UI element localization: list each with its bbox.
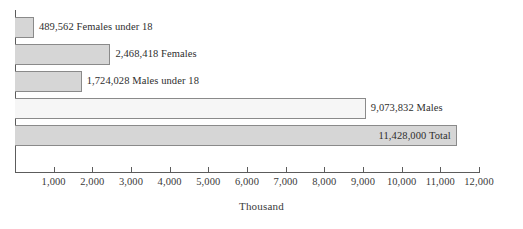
- bar: [15, 17, 34, 38]
- x-axis-tick-mark: [402, 167, 403, 173]
- x-axis-tick-label: 7,000: [274, 176, 298, 187]
- x-axis-tick-mark: [440, 167, 441, 173]
- bar-item: 11,428,000 Total: [15, 125, 457, 146]
- x-axis-tick-label: 5,000: [196, 176, 220, 187]
- x-axis-tick-label: 3,000: [119, 176, 143, 187]
- bar-chart: 1,0002,0003,0004,0005,0006,0007,0008,000…: [0, 0, 523, 229]
- x-axis-tick-mark: [247, 167, 248, 173]
- x-axis-tick-label: 11,000: [426, 176, 455, 187]
- x-axis-tick-label: 4,000: [158, 176, 182, 187]
- bar-item: 1,724,028 Males under 18: [15, 71, 199, 92]
- x-axis-tick-mark: [324, 167, 325, 173]
- x-axis-tick-label: 1,000: [42, 176, 66, 187]
- bar-value-label: 11,428,000 Total: [379, 130, 451, 141]
- bar-item: 2,468,418 Females: [15, 44, 197, 65]
- bar-row: 11,428,000 Total: [15, 125, 457, 146]
- x-axis-tick-mark: [170, 167, 171, 173]
- bar-value-label: 1,724,028 Males under 18: [87, 76, 199, 87]
- x-axis-tick-mark: [363, 167, 364, 173]
- x-axis-tick-mark: [208, 167, 209, 173]
- bar-row: 2,468,418 Females: [15, 44, 197, 65]
- x-axis-tick-mark: [131, 167, 132, 173]
- bar-value-label: 9,073,832 Males: [371, 103, 443, 114]
- bar: [15, 71, 82, 92]
- bar-value-label: 2,468,418 Females: [115, 49, 196, 60]
- bar-row: 489,562 Females under 18: [15, 17, 153, 38]
- x-axis-tick-mark: [286, 167, 287, 173]
- x-axis-tick-label: 12,000: [464, 176, 493, 187]
- x-axis-tick-label: 2,000: [80, 176, 104, 187]
- bar-item: 9,073,832 Males: [15, 98, 443, 119]
- bar-value-label: 489,562 Females under 18: [39, 22, 153, 33]
- x-axis-tick-label: 8,000: [312, 176, 336, 187]
- bar: [15, 44, 110, 65]
- x-axis-tick-mark: [54, 167, 55, 173]
- x-axis-tick-mark: [479, 167, 480, 173]
- x-axis-tick-label: 9,000: [351, 176, 375, 187]
- x-axis-title: Thousand: [0, 200, 523, 212]
- x-axis-tick-label: 6,000: [235, 176, 259, 187]
- bar: [15, 98, 366, 119]
- bar-row: 1,724,028 Males under 18: [15, 71, 199, 92]
- bar-row: 9,073,832 Males: [15, 98, 443, 119]
- bar-item: 489,562 Females under 18: [15, 17, 153, 38]
- x-axis-tick-label: 10,000: [387, 176, 416, 187]
- x-axis-tick-mark: [92, 167, 93, 173]
